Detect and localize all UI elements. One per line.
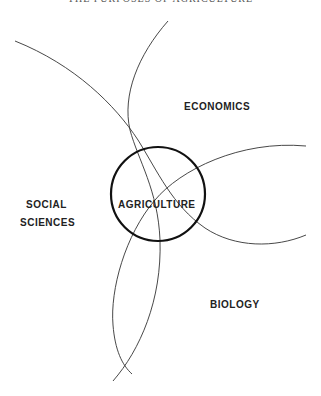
- social-sciences-label-line1: SOCIAL: [26, 196, 67, 213]
- social-sciences-label-line2: SCIENCES: [20, 214, 75, 231]
- economics-label: ECONOMICS: [184, 98, 250, 115]
- biology-label: BIOLOGY: [210, 296, 260, 313]
- agriculture-label: AGRICULTURE: [118, 196, 196, 213]
- biology-arc: [113, 145, 306, 374]
- agriculture-circle: [111, 147, 205, 241]
